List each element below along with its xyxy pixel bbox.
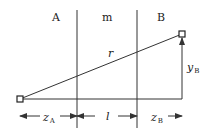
label-yB-sub: B [194, 67, 199, 75]
label-zB-sub: B [158, 117, 163, 125]
label-yB-main: y [187, 61, 193, 74]
label-zB: zB [151, 112, 163, 125]
label-zA-sub: A [50, 117, 55, 125]
region-label-m: m [102, 12, 112, 23]
region-label-A: A [52, 12, 60, 23]
region-label-B: B [157, 12, 165, 23]
source-point-square [17, 96, 23, 102]
label-zA: zA [43, 112, 55, 125]
label-zA-main: z [43, 111, 49, 124]
label-l: l [106, 111, 110, 122]
target-point-square [179, 31, 185, 37]
label-r: r [108, 48, 113, 59]
label-yB: yB [187, 62, 199, 75]
distance-line-r [20, 34, 182, 99]
diagram-canvas: A m B r yB zA l zB [0, 0, 208, 133]
label-zB-main: z [151, 111, 157, 124]
